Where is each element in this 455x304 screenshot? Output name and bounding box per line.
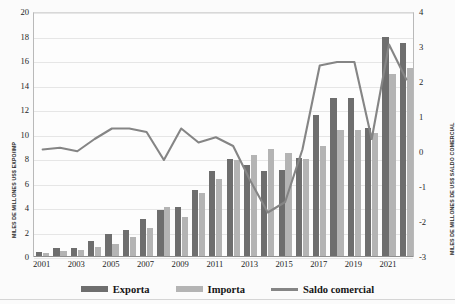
x-tick-2007: 2007: [137, 259, 154, 269]
x-tick-2013: 2013: [241, 259, 258, 269]
y-tick-left: 4: [25, 203, 29, 213]
x-axis-baseline: [34, 256, 413, 257]
x-tick-2011: 2011: [206, 259, 223, 269]
right-axis-title: MILES DE MILLONES DE US$ SALDO COMERCIAL: [449, 122, 455, 255]
footer-divider: [0, 299, 455, 300]
y-tick-left: 14: [20, 81, 29, 91]
legend-line-icon: [271, 288, 298, 291]
x-tick-2003: 2003: [68, 259, 85, 269]
legend-item-2[interactable]: Saldo comercial: [271, 284, 374, 295]
y-tick-right: -2: [419, 217, 426, 227]
y-tick-right: 3: [419, 42, 423, 52]
plot-area: [33, 12, 414, 257]
left-axis-ticks: 02468101214161820: [14, 12, 29, 257]
y-tick-right: 2: [419, 77, 423, 87]
y-tick-left: 20: [20, 7, 29, 17]
x-axis-labels: 2001200320052007200920112013201520172019…: [33, 259, 414, 275]
saldo-comercial-line: [34, 13, 415, 258]
y-tick-left: 8: [25, 154, 29, 164]
y-tick-right: 0: [419, 147, 423, 157]
y-tick-left: 12: [20, 105, 29, 115]
x-tick-2005: 2005: [102, 259, 119, 269]
chart-legend: ExportaImportaSaldo comercial: [0, 280, 455, 298]
legend-item-0[interactable]: Exporta: [81, 284, 150, 295]
x-tick-2021: 2021: [379, 259, 396, 269]
y-tick-right: 4: [419, 7, 423, 17]
y-tick-left: 6: [25, 179, 29, 189]
y-tick-right: -1: [419, 182, 426, 192]
y-tick-left: 18: [20, 32, 29, 42]
y-tick-left: 10: [20, 130, 29, 140]
x-tick-2017: 2017: [310, 259, 327, 269]
legend-bar-icon: [176, 286, 203, 292]
x-tick-2019: 2019: [345, 259, 362, 269]
legend-label: Saldo comercial: [303, 284, 374, 295]
legend-label: Importa: [208, 284, 245, 295]
legend-bar-icon: [81, 286, 108, 292]
y-tick-right: 1: [419, 112, 423, 122]
y-tick-right: -3: [419, 252, 426, 262]
x-tick-2001: 2001: [33, 259, 50, 269]
x-tick-2015: 2015: [276, 259, 293, 269]
x-tick-2009: 2009: [172, 259, 189, 269]
legend-item-1[interactable]: Importa: [176, 284, 245, 295]
legend-label: Exporta: [113, 284, 150, 295]
y-tick-left: 2: [25, 228, 29, 238]
y-tick-left: 16: [20, 56, 29, 66]
right-axis-ticks: -3-2-101234: [419, 12, 437, 257]
trade-balance-chart: MILES DE MILLONES US$ EXPO/IMP MILES DE …: [0, 0, 455, 304]
y-tick-left: 0: [25, 252, 29, 262]
